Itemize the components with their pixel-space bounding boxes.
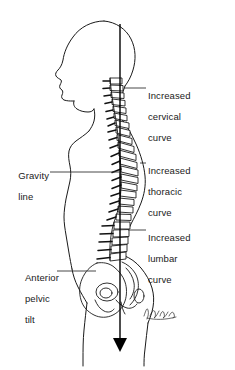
label-pelvic-line-3: tilt (25, 315, 59, 326)
vertebra-l1 (114, 222, 130, 229)
label-increased-lumbar-curve: Increased lumbar curve (148, 222, 191, 296)
label-gravity-line-1: Gravity (18, 171, 49, 182)
vertebra-l4 (111, 245, 127, 254)
artist-signature (144, 309, 176, 320)
vertebra-c2 (110, 85, 123, 91)
label-thoracic-line-2: thoracic (148, 187, 191, 198)
label-increased-cervical-curve: Increased cervical curve (148, 80, 191, 154)
sacrum-inner-outline (126, 268, 134, 299)
label-cervical-line-1: Increased (148, 91, 191, 102)
gravity-line-arrowhead (113, 338, 127, 352)
vertebra-l5 (110, 252, 126, 261)
pubic-ramus-outline (95, 300, 114, 312)
spinous-c3 (104, 95, 111, 96)
spinous-t10 (110, 201, 119, 204)
spinous-l5 (97, 258, 110, 260)
thigh-back-outline (144, 323, 148, 366)
spinous-t2 (109, 138, 117, 141)
spinous-c4 (105, 102, 112, 104)
label-lumbar-line-2: lumbar (148, 254, 191, 265)
thigh-front-outline (83, 303, 87, 366)
spinous-t4 (111, 153, 119, 157)
lumbar-vertebrae-group (97, 222, 130, 261)
spinous-t9 (111, 193, 120, 196)
vertebra-t12 (116, 214, 131, 221)
vertebra-t9 (120, 190, 136, 198)
ischium-outline (116, 300, 137, 308)
label-cervical-line-3: curve (148, 133, 191, 144)
spinous-l4 (98, 250, 111, 251)
label-increased-thoracic-curve: Increased thoracic curve (148, 155, 191, 229)
femoral-head-outline (100, 288, 112, 298)
label-pelvic-line-2: pelvic (25, 294, 59, 305)
vertebra-c4 (112, 99, 125, 106)
label-gravity-line: Gravity line (18, 160, 49, 213)
spinous-t3 (110, 145, 118, 148)
label-pelvic-line-1: Anterior (25, 273, 59, 284)
spinous-t5 (112, 161, 120, 165)
label-anterior-pelvic-tilt: Anterior pelvic tilt (25, 262, 59, 336)
spinous-c2 (103, 88, 110, 89)
spinous-t11 (109, 209, 118, 212)
vertebra-t8 (121, 182, 137, 191)
label-cervical-line-2: cervical (148, 112, 191, 123)
spinous-c5 (106, 110, 113, 112)
spinous-l1 (102, 226, 114, 227)
head-outline (56, 21, 104, 101)
spinous-c6 (107, 117, 114, 119)
greater-trochanter-outline (134, 289, 144, 303)
label-gravity-line-2: line (18, 192, 49, 203)
thoracic-vertebrae-group (107, 127, 138, 221)
label-lumbar-line-3: curve (148, 275, 191, 286)
anatomy-figure: Increased cervical curve Increased thora… (0, 0, 235, 370)
label-thoracic-line-1: Increased (148, 166, 191, 177)
vertebra-t10 (119, 198, 134, 206)
label-lumbar-line-1: Increased (148, 233, 191, 244)
spinous-c7 (108, 123, 115, 126)
spinous-t1 (108, 130, 116, 132)
label-thoracic-line-3: curve (148, 208, 191, 219)
vertebra-c3 (111, 92, 124, 99)
jaw-chin-outline (74, 101, 94, 112)
vertebra-l2 (113, 230, 129, 238)
torso-front-outline (64, 131, 89, 269)
